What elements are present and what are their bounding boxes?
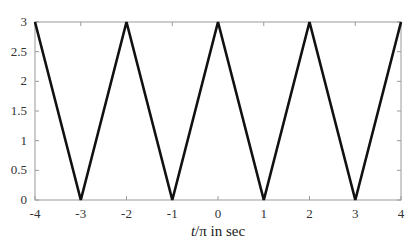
x-tick-label: 3 [352,206,359,221]
x-tick-label: -1 [167,206,178,221]
x-tick-label: 1 [261,206,268,221]
x-tick-label: -2 [121,206,132,221]
y-tick-label: 3 [21,14,28,29]
x-tick-label: -3 [75,206,86,221]
y-tick-label: 2.5 [11,44,27,59]
plot-area [35,22,401,200]
y-tick-labels: 00.511.522.53 [11,14,27,207]
x-tick-label: 4 [398,206,405,221]
y-tick-label: 1 [21,133,28,148]
x-tick-label: -4 [30,206,41,221]
x-axis-title: t/π in sec [191,223,246,239]
y-tick-label: 0.5 [11,162,27,177]
x-tick-label: 0 [215,206,222,221]
x-tick-label: 2 [306,206,313,221]
y-tick-label: 0 [21,192,28,207]
y-tick-label: 1.5 [11,103,27,118]
x-tick-labels: -4-3-2-101234 [30,206,405,221]
triangle-wave-chart: -4-3-2-101234 00.511.522.53 t/π in sec [0,0,414,248]
y-tick-label: 2 [21,73,28,88]
